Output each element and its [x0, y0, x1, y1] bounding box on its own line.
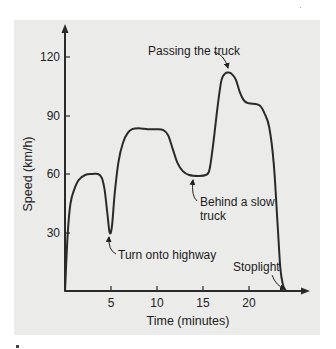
y-tick-label: 120 [40, 50, 60, 64]
x-axis-title: Time (minutes) [147, 314, 230, 328]
y-tick-label: 60 [47, 167, 61, 181]
x-axis-arrow-icon [301, 288, 310, 295]
x-tick-label: 5 [108, 296, 115, 310]
annotation-passing: Passing the truck [148, 44, 241, 68]
x-tick-label: 10 [150, 296, 164, 310]
annotation-label: Passing the truck [148, 44, 241, 58]
x-tick-label: 15 [196, 296, 210, 310]
y-axis-arrow-icon [62, 24, 69, 33]
annotation-turn-highway: Turn onto highway [109, 237, 216, 262]
y-tick-label: 90 [47, 109, 61, 123]
annotation-stoplight: Stoplight [233, 260, 285, 289]
annotation-label: truck [200, 209, 227, 223]
speed-chart: 30 60 90 120 5 10 15 20 Time (minutes) S… [0, 0, 336, 349]
y-axis-title: Speed (km/h) [21, 136, 35, 211]
x-tick-label: 20 [242, 296, 256, 310]
annotation-label: Stoplight [233, 260, 280, 274]
annotation-label: Behind a slow [200, 195, 275, 209]
y-tick-label: 30 [47, 226, 61, 240]
annotation-label: Turn onto highway [118, 248, 216, 262]
x-ticks: 5 10 15 20 [108, 286, 256, 310]
annotation-behind-truck: Behind a slow truck [193, 180, 276, 223]
